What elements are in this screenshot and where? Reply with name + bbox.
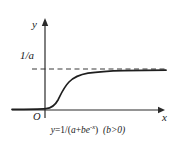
logistic-curve <box>12 70 166 109</box>
asymptote-value-label: 1/a <box>20 50 34 61</box>
y-axis-arrowhead <box>42 18 48 26</box>
y-axis-label: y <box>32 19 37 30</box>
equation-numerator: 1/( <box>60 125 71 135</box>
logistic-function-figure: y x O 1/a y=1/(a+be-x) (b>0) <box>0 0 176 148</box>
equation-caption: y=1/(a+be-x) (b>0) <box>0 125 176 135</box>
x-axis-label: x <box>162 112 167 123</box>
equation-condition: (b>0) <box>103 125 125 135</box>
origin-label: O <box>33 112 41 123</box>
equation-close-paren: ) <box>95 125 98 135</box>
